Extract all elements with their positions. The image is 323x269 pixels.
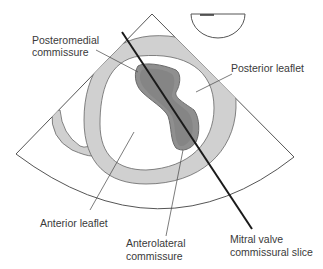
label-posteromedial-commissure-2: commissure [32, 46, 89, 58]
label-slice-1: Mitral valve [230, 233, 283, 245]
label-anterolateral-commissure-1: Anterolateral [126, 237, 186, 249]
label-slice-2: commissural slice [230, 246, 313, 258]
label-posteromedial-commissure-1: Posteromedial [32, 34, 99, 46]
label-posterior-leaflet: Posterior leaflet [231, 62, 304, 74]
label-anterior-leaflet: Anterior leaflet [40, 217, 108, 229]
label-anterolateral-commissure-2: commissure [126, 250, 183, 262]
semicircle-probe-icon [191, 14, 245, 38]
mitral-valve-diagram: Posteromedial commissure Posterior leafl… [0, 0, 323, 269]
